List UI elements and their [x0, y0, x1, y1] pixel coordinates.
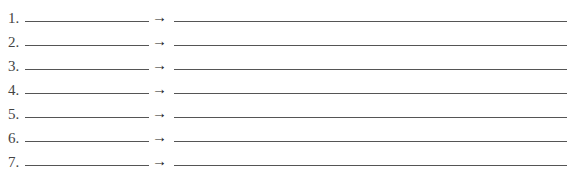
- answer-blank-right[interactable]: [174, 21, 567, 22]
- list-item: 5. →: [0, 104, 576, 128]
- list-item: 6. →: [0, 128, 576, 152]
- list-item: 7. →: [0, 152, 576, 176]
- answer-blank-right[interactable]: [174, 45, 567, 46]
- answer-blank-right[interactable]: [174, 117, 567, 118]
- item-number: 2.: [8, 32, 19, 52]
- answer-blank-left[interactable]: [25, 117, 149, 118]
- answer-blank-right[interactable]: [174, 165, 567, 166]
- list-item: 3. →: [0, 56, 576, 80]
- arrow-right-icon: →: [152, 56, 167, 74]
- answer-blank-left[interactable]: [25, 45, 149, 46]
- answer-blank-right[interactable]: [174, 69, 567, 70]
- item-number: 1.: [8, 8, 19, 28]
- answer-blank-left[interactable]: [25, 21, 149, 22]
- answer-blank-left[interactable]: [25, 69, 149, 70]
- answer-blank-left[interactable]: [25, 141, 149, 142]
- arrow-right-icon: →: [152, 152, 167, 170]
- list-item: 4. →: [0, 80, 576, 104]
- answer-blank-right[interactable]: [174, 93, 567, 94]
- answer-blank-left[interactable]: [25, 165, 149, 166]
- list-item: 2. →: [0, 32, 576, 56]
- arrow-right-icon: →: [152, 128, 167, 146]
- list-item: 1. →: [0, 8, 576, 32]
- answer-blank-left[interactable]: [25, 93, 149, 94]
- arrow-right-icon: →: [152, 32, 167, 50]
- arrow-right-icon: →: [152, 8, 167, 26]
- item-number: 5.: [8, 104, 19, 124]
- item-number: 7.: [8, 152, 19, 172]
- item-number: 6.: [8, 128, 19, 148]
- answer-blank-right[interactable]: [174, 141, 567, 142]
- arrow-right-icon: →: [152, 104, 167, 122]
- arrow-right-icon: →: [152, 80, 167, 98]
- item-number: 3.: [8, 56, 19, 76]
- item-number: 4.: [8, 80, 19, 100]
